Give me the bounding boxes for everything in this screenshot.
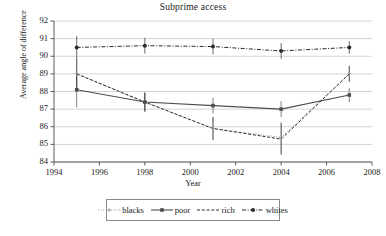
data-point-whites <box>347 45 351 49</box>
legend-swatch-poor <box>151 205 173 215</box>
data-point-whites <box>75 45 79 49</box>
chart-figure: Subprime access Average angle of differe… <box>0 0 386 236</box>
legend-label: rich <box>221 205 234 215</box>
data-point-poor <box>279 107 283 111</box>
legend: blackspoorrichwhites <box>106 199 280 221</box>
data-series-layer <box>75 36 352 155</box>
data-point-poor <box>211 104 215 108</box>
x-tick-label: 1996 <box>81 167 117 177</box>
legend-item-poor[interactable]: poor <box>151 205 191 215</box>
legend-label: whites <box>266 205 288 215</box>
data-point-blacks <box>75 72 79 76</box>
legend-label: blacks <box>122 205 144 215</box>
y-tick-label: 92 <box>20 15 48 25</box>
data-point-whites <box>279 49 283 53</box>
x-tick-label: 2006 <box>309 167 345 177</box>
x-tick-label: 2002 <box>218 167 254 177</box>
legend-item-rich[interactable]: rich <box>197 205 234 215</box>
legend-swatch-whites <box>242 205 264 215</box>
data-point-poor <box>143 100 147 104</box>
y-tick-label: 89 <box>20 68 48 78</box>
x-tick-label: 2000 <box>172 167 208 177</box>
y-tick-label: 87 <box>20 103 48 113</box>
y-tick-label: 90 <box>20 50 48 60</box>
data-point-poor <box>347 93 351 97</box>
x-axis-label: Year <box>0 178 386 188</box>
legend-swatch-blacks <box>98 205 120 215</box>
legend-label: poor <box>175 205 191 215</box>
legend-swatch-rich <box>197 205 219 215</box>
x-tick-label: 2008 <box>354 167 386 177</box>
data-point-poor <box>75 88 79 92</box>
y-tick-label: 86 <box>20 121 48 131</box>
x-tick-label: 1994 <box>36 167 72 177</box>
y-tick-label: 84 <box>20 156 48 166</box>
y-tick-label: 91 <box>20 33 48 43</box>
y-tick-label: 88 <box>20 86 48 96</box>
legend-item-blacks[interactable]: blacks <box>98 205 144 215</box>
legend-item-whites[interactable]: whites <box>242 205 288 215</box>
x-tick-label: 1998 <box>127 167 163 177</box>
data-point-whites <box>211 45 215 49</box>
data-point-whites <box>143 44 147 48</box>
y-tick-label: 85 <box>20 138 48 148</box>
data-point-blacks <box>279 135 283 139</box>
x-tick-label: 2004 <box>263 167 299 177</box>
